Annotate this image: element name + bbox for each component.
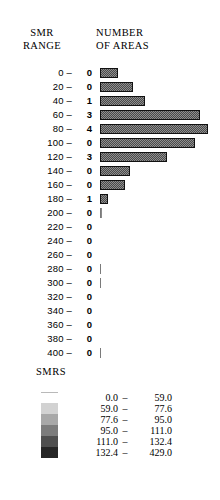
legend-title: SMRS [36,366,66,377]
smr-range-label: 140 – [0,164,72,178]
histogram-bar [100,68,118,78]
histogram-row: 140 –0 [0,164,220,178]
area-count-value: 0 [74,234,92,248]
area-count-value: 0 [74,304,92,318]
legend-range-high: 132.4 [132,436,172,447]
area-count-value: 0 [74,318,92,332]
histogram-row: 280 –0 [0,262,220,276]
histogram-row: 320 –0 [0,290,220,304]
smr-range-label: 320 – [0,290,72,304]
area-count-value: 0 [74,206,92,220]
smr-range-label: 260 – [0,248,72,262]
column-headers: SMR RANGE NUMBER OF AREAS [0,26,220,60]
legend-range-high: 111.0 [132,425,172,436]
legend-range-high: 95.0 [132,414,172,425]
histogram-bar [100,180,125,190]
legend-range-dash: – [118,392,132,403]
histogram-bar [100,110,200,120]
area-count-value: 0 [74,346,92,360]
area-count-value: 0 [74,262,92,276]
area-count-value: 0 [74,248,92,262]
area-count-value: 3 [74,108,92,122]
histogram-bar [100,166,130,176]
legend-range-row: 95.0–111.0 [62,425,172,436]
area-count-value: 1 [74,94,92,108]
smr-range-header-line1: SMR [12,26,72,39]
legend-color-swatch [41,425,58,436]
smr-range-header-line2: RANGE [12,39,72,52]
legend-range-dash: – [118,425,132,436]
histogram-row: 340 –0 [0,304,220,318]
histogram-row: 60 –3 [0,108,220,122]
smr-range-label: 80 – [0,122,72,136]
legend-range-high: 77.6 [132,403,172,414]
histogram-row: 360 –0 [0,318,220,332]
histogram-bar [100,348,101,358]
area-count-value: 0 [74,332,92,346]
histogram-row: 220 –0 [0,220,220,234]
legend-range-low: 111.0 [80,436,118,447]
smr-range-label: 240 – [0,234,72,248]
area-count-value: 4 [74,122,92,136]
histogram-bar [100,152,167,162]
legend-range-row: 77.6–95.0 [62,414,172,425]
histogram-row: 160 –0 [0,178,220,192]
area-count-value: 0 [74,136,92,150]
histogram-row: 240 –0 [0,234,220,248]
smr-range-label: 180 – [0,192,72,206]
legend-range-row: 59.0–77.6 [62,403,172,414]
legend-range-low: 95.0 [80,425,118,436]
histogram-row: 80 –4 [0,122,220,136]
number-of-areas-header-line2: OF AREAS [96,39,206,52]
histogram-bar [100,264,101,274]
smr-range-label: 40 – [0,94,72,108]
area-count-value: 0 [74,220,92,234]
smr-range-label: 380 – [0,332,72,346]
area-count-value: 0 [74,178,92,192]
smr-range-label: 280 – [0,262,72,276]
smr-range-label: 200 – [0,206,72,220]
histogram-row: 200 –0 [0,206,220,220]
histogram-row: 120 –3 [0,150,220,164]
legend-range-low: 0.0 [80,392,118,403]
number-of-areas-header-line1: NUMBER [96,26,206,39]
smr-range-label: 300 – [0,276,72,290]
smr-range-label: 160 – [0,178,72,192]
area-count-value: 0 [74,290,92,304]
smr-range-header: SMR RANGE [12,26,72,52]
histogram-bar [100,138,195,148]
smr-range-label: 20 – [0,80,72,94]
legend-range-row: 111.0–132.4 [62,436,172,447]
histogram-bar [100,124,208,134]
area-count-value: 3 [74,150,92,164]
smr-range-label: 400 – [0,346,72,360]
histogram-row: 40 –1 [0,94,220,108]
smr-range-label: 60 – [0,108,72,122]
area-count-value: 0 [74,66,92,80]
smr-range-label: 100 – [0,136,72,150]
legend-color-swatch [41,436,58,447]
histogram-rows: 0 –020 –040 –160 –380 –4100 –0120 –3140 … [0,66,220,360]
smr-range-label: 360 – [0,318,72,332]
legend-range-row: 0.0–59.0 [62,392,172,403]
histogram-page: SMR RANGE NUMBER OF AREAS 0 –020 –040 –1… [0,0,220,500]
legend-range-low: 59.0 [80,403,118,414]
area-count-value: 0 [74,276,92,290]
histogram-row: 100 –0 [0,136,220,150]
histogram-row: 300 –0 [0,276,220,290]
legend-range-low: 77.6 [80,414,118,425]
area-count-value: 0 [74,80,92,94]
histogram-bar [100,278,101,288]
histogram-row: 380 –0 [0,332,220,346]
histogram-bar [100,96,145,106]
legend-range-dash: – [118,403,132,414]
legend-range-dash: – [118,447,132,458]
histogram-row: 180 –1 [0,192,220,206]
legend-range-high: 59.0 [132,392,172,403]
histogram-row: 260 –0 [0,248,220,262]
smr-range-label: 220 – [0,220,72,234]
histogram-bar [100,82,133,92]
legend-range-high: 429.0 [132,447,172,458]
legend-color-swatch [41,414,58,425]
legend-range-dash: – [118,436,132,447]
